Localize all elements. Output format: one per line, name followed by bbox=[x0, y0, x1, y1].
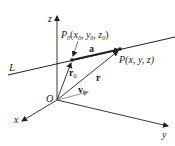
y-axis-label: y bbox=[161, 129, 167, 140]
y-axis bbox=[57, 100, 168, 126]
point-p0 bbox=[70, 58, 74, 62]
line-label: L bbox=[8, 61, 15, 73]
p0-label: P0(x0, y0, z0) bbox=[60, 29, 109, 41]
vector-v-label: v bbox=[78, 84, 83, 95]
p0-pointer bbox=[73, 41, 78, 56]
z-axis-label: z bbox=[47, 13, 52, 24]
vector-r0-label: r0 bbox=[69, 67, 76, 79]
vector-a bbox=[72, 50, 119, 61]
origin-label: O bbox=[46, 93, 53, 104]
point-p bbox=[118, 47, 122, 51]
vector-line-diagram: z x y O L P0(x0, y0, z0) P(x, y, z) a r0… bbox=[0, 0, 175, 146]
x-axis-label: x bbox=[13, 114, 19, 125]
vector-r-label: r bbox=[96, 72, 101, 83]
vector-a-label: a bbox=[89, 43, 94, 54]
p-label: P(x, y, z) bbox=[118, 54, 155, 66]
